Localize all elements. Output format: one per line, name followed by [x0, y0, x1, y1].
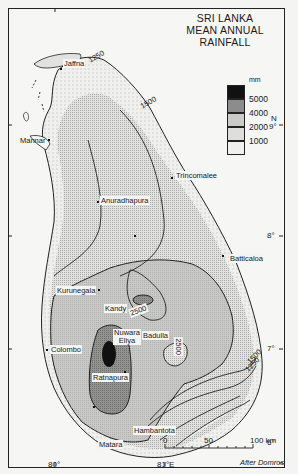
map-title: SRI LANKA MEAN ANNUAL RAINFALL: [160, 12, 290, 48]
place-label-mannar: Mannar: [20, 136, 45, 145]
legend-swatch-4000: [227, 99, 245, 113]
latitude-tick-8: 8°: [267, 231, 275, 240]
longitude-tick-80: 80°: [48, 460, 60, 469]
place-label-kurunegala: Kurunegala: [56, 286, 96, 295]
legend-label-2000: 2000: [249, 122, 268, 132]
isohyet-label-2500-badulla: 2500: [174, 337, 183, 356]
legend-swatch-under-1000: [227, 141, 245, 155]
place-label-nuwara-eliya: Nuwara Eliya: [113, 329, 141, 345]
title-line-2: MEAN ANNUAL RAINFALL: [160, 24, 290, 48]
scale-label-100: 100 km: [250, 436, 276, 445]
legend-label-5000: 5000: [249, 94, 268, 104]
legend-swatch-2000: [227, 113, 245, 127]
place-label-badulla: Badulla: [142, 331, 169, 340]
longitude-tick-81: 81°E: [157, 460, 174, 469]
legend-unit: mm: [249, 76, 261, 83]
legend-label-1000: 1000: [249, 136, 268, 146]
legend-label-4000: 4000: [249, 108, 268, 118]
latitude-tick-9: N 9°: [269, 115, 277, 131]
scale-label-0: 0: [163, 436, 167, 445]
place-label-batticaloa: Batticaloa: [229, 254, 264, 263]
place-label-trincomalee: Trincomalee: [175, 171, 218, 180]
legend-swatch-1000: [227, 127, 245, 141]
rainfall-map: [0, 0, 298, 474]
map-credit: After Domros: [240, 458, 284, 467]
scale-label-50: 50: [204, 436, 213, 445]
title-line-1: SRI LANKA: [160, 12, 290, 24]
place-label-jaffna: Jaffna: [63, 59, 85, 68]
place-label-colombo: Colombo: [50, 345, 82, 354]
place-label-kandy: Kandy: [104, 304, 127, 313]
place-label-matara: Matara: [98, 440, 123, 449]
place-label-anuradhapura: Anuradhapura: [100, 196, 150, 205]
legend-swatch-5000: [227, 85, 245, 99]
place-label-hambantota: Hambantota: [133, 426, 176, 435]
latitude-tick-7: 7°: [267, 344, 275, 353]
place-label-ratnapura: Ratnapura: [92, 373, 129, 382]
